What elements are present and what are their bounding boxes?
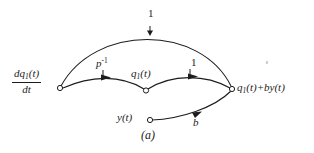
node-label-q1: q1(t) — [131, 68, 151, 81]
node-label-output: q1(t)+by(t) — [237, 82, 285, 95]
node-label-source: dq1(t) dt — [12, 68, 41, 96]
source-numerator: dq1(t) — [12, 68, 41, 82]
node-y — [147, 117, 152, 122]
node-source — [57, 85, 62, 90]
graph-canvas — [0, 0, 314, 153]
figure-caption: (a) — [141, 128, 155, 143]
gain-label-p-inverse: p-1 — [96, 57, 108, 69]
edge-unity-mid — [148, 78, 230, 89]
node-q1 — [143, 88, 148, 93]
node-output — [229, 86, 234, 91]
gain-label-unity-mid: 1 — [191, 57, 197, 69]
edge-b-branch — [152, 91, 231, 120]
gain-label-top-arc: 1 — [148, 8, 154, 20]
gain-label-b-branch: b — [193, 117, 199, 129]
signal-flow-graph-figure: dq1(t) dt q1(t) y(t) q1(t)+by(t) 1 p-1 1… — [0, 0, 314, 153]
node-label-y: y(t) — [117, 112, 132, 124]
source-denominator: dt — [12, 83, 41, 96]
